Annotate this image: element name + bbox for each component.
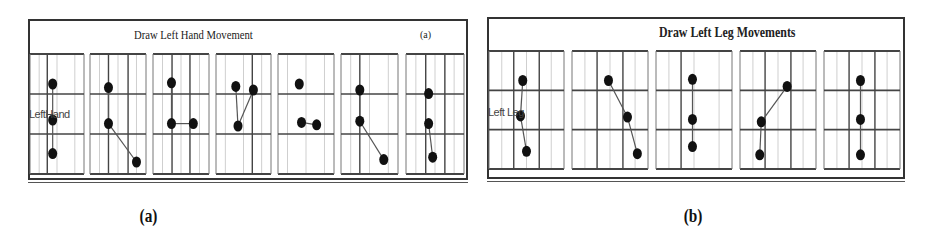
left-leg-movement-panel: Draw Left Leg Movements Left Leg — [487, 17, 905, 179]
joint-dot-icon — [167, 77, 176, 88]
panel-title: Draw Left Hand Movement — [134, 27, 253, 43]
joint-dot-icon — [783, 81, 792, 92]
joint-dot-icon — [48, 148, 57, 159]
joint-dot-icon — [623, 112, 632, 123]
joint-dot-icon — [604, 75, 613, 86]
joint-dot-icon — [189, 118, 198, 129]
joint-dot-icon — [297, 117, 306, 128]
joint-dot-icon — [104, 118, 113, 129]
joint-dot-icon — [295, 79, 304, 90]
movement-grid — [216, 54, 271, 174]
joint-dot-icon — [424, 88, 433, 99]
movement-grid — [153, 54, 209, 174]
caption-a: (a) — [140, 206, 158, 227]
joint-dot-icon — [379, 154, 388, 165]
joint-dot-icon — [312, 119, 321, 130]
joint-dot-icon — [688, 114, 697, 125]
movement-grid — [824, 51, 900, 169]
joint-dot-icon — [633, 148, 642, 159]
movement-grid — [406, 54, 464, 174]
joint-dot-icon — [856, 114, 865, 125]
movement-grid — [90, 54, 146, 174]
joint-dot-icon — [355, 116, 364, 127]
joint-dot-icon — [249, 85, 258, 96]
panel-tag: (a) — [420, 29, 431, 40]
left-hand-label: LeftHand — [29, 108, 70, 120]
joint-dot-icon — [856, 149, 865, 160]
caption-b: (b) — [684, 206, 703, 227]
left-hand-movement-panel: Draw Left Hand Movement (a) LeftHand — [28, 19, 468, 180]
movement-grid — [656, 51, 732, 169]
joint-dot-icon — [104, 82, 113, 93]
joint-dot-icon — [518, 75, 527, 86]
joint-dot-icon — [231, 81, 240, 92]
movement-grid — [572, 51, 648, 169]
joint-dot-icon — [167, 118, 176, 129]
joint-dot-icon — [48, 79, 57, 90]
joint-dot-icon — [688, 74, 697, 85]
joint-dot-icon — [355, 85, 364, 96]
joint-dot-icon — [522, 146, 531, 157]
joint-dot-icon — [428, 152, 437, 163]
joint-dot-icon — [132, 157, 141, 168]
joint-dot-icon — [757, 116, 766, 127]
panel-title: Draw Left Leg Movements — [659, 25, 795, 41]
left-leg-label: Left Leg — [488, 106, 524, 118]
joint-dot-icon — [424, 118, 433, 129]
joint-dot-icon — [856, 75, 865, 86]
joint-dot-icon — [688, 141, 697, 152]
joint-dot-icon — [755, 149, 764, 160]
movement-grid — [740, 51, 816, 169]
joint-dot-icon — [234, 121, 243, 132]
movement-grid — [341, 54, 398, 174]
movement-grid — [278, 54, 334, 174]
